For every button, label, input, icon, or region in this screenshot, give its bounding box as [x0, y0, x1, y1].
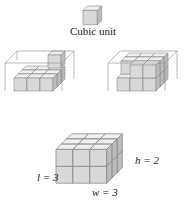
volume-diagram: Cubic unit [0, 0, 185, 201]
full-box [56, 134, 122, 183]
width-label: w = 3 [92, 186, 118, 198]
unit-cube [83, 6, 102, 25]
partial-fill-box-2 [108, 51, 177, 91]
unit-label: Cubic unit [70, 25, 116, 37]
length-label: l = 3 [37, 171, 59, 183]
height-label: h = 2 [135, 154, 159, 166]
partial-fill-box-1 [5, 51, 74, 91]
